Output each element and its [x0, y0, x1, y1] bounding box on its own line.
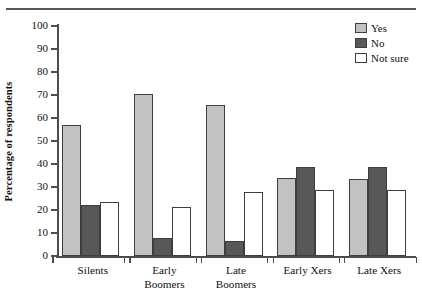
y-axis-tick-label: 80: [18, 66, 48, 77]
y-axis-tick-label: 10: [18, 227, 48, 238]
bar-late-boomers-no: [225, 241, 244, 256]
bar-silents-no: [81, 205, 100, 256]
x-axis-category-label: Late Xers: [337, 264, 421, 278]
y-axis-tick-mark: [51, 209, 57, 210]
bar-chart-figure: Percentage of respondents 01020304050607…: [0, 0, 422, 301]
legend-item-label: No: [371, 38, 384, 49]
chart-legend: YesNoNot sure: [355, 21, 419, 66]
x-axis-tick-mark: [339, 257, 340, 263]
y-axis-tick-label: 60: [18, 112, 48, 123]
y-axis-tick-mark: [51, 117, 57, 118]
legend-item-not-sure[interactable]: Not sure: [355, 51, 419, 65]
legend-item-label: Yes: [371, 23, 387, 34]
bar-early-boomers-not-sure: [172, 207, 191, 256]
y-axis-tick-mark: [51, 186, 57, 187]
y-axis-tick-labels: 0102030405060708090100: [16, 0, 48, 301]
x-axis-tick-mark: [344, 257, 345, 263]
x-axis-tick-mark: [416, 257, 417, 263]
y-axis-tick-mark: [51, 163, 57, 164]
bar-early-xers-no: [296, 167, 315, 256]
bar-late-xers-not-sure: [387, 190, 406, 256]
x-axis-line: [56, 256, 416, 258]
dark-gray-swatch: [355, 38, 367, 48]
bar-early-xers-yes: [277, 178, 296, 256]
y-axis-tick-label: 30: [18, 181, 48, 192]
y-axis-tick-mark: [51, 140, 57, 141]
y-axis-tick-label: 40: [18, 158, 48, 169]
y-axis-tick-label: 70: [18, 89, 48, 100]
y-axis-tick-label: 20: [18, 204, 48, 215]
x-axis-tick-mark: [124, 257, 125, 263]
x-axis-tick-mark: [196, 257, 197, 263]
x-axis-tick-mark: [273, 257, 274, 263]
bar-late-boomers-not-sure: [244, 192, 263, 256]
light-gray-swatch: [355, 23, 367, 33]
y-axis-tick-mark: [51, 71, 57, 72]
x-axis-tick-mark: [201, 257, 202, 263]
bar-silents-yes: [62, 125, 81, 256]
bar-silents-not-sure: [100, 202, 119, 256]
y-axis-tick-label: 100: [18, 20, 48, 31]
top-divider-rule: [6, 8, 416, 10]
bar-late-xers-no: [368, 167, 387, 256]
bar-early-xers-not-sure: [315, 190, 334, 256]
y-axis-tick-mark: [51, 94, 57, 95]
y-axis-tick-mark: [51, 25, 57, 26]
bar-early-boomers-no: [153, 238, 172, 256]
y-axis-tick-label: 50: [18, 135, 48, 146]
y-axis-tick-mark: [51, 48, 57, 49]
bar-late-boomers-yes: [206, 105, 225, 256]
bar-early-boomers-yes: [134, 94, 153, 256]
bar-late-xers-yes: [349, 179, 368, 256]
legend-item-label: Not sure: [371, 53, 409, 64]
x-axis-tick-mark: [52, 257, 53, 263]
y-axis-tick-label: 90: [18, 43, 48, 54]
x-axis-tick-mark: [267, 257, 268, 263]
y-axis-tick-mark: [51, 232, 57, 233]
legend-item-no[interactable]: No: [355, 36, 419, 50]
x-axis-tick-mark: [129, 257, 130, 263]
legend-item-yes[interactable]: Yes: [355, 21, 419, 35]
y-axis-tick-label: 0: [18, 250, 48, 261]
y-axis-title-text: Percentage of respondents: [4, 81, 15, 201]
white-swatch: [355, 53, 367, 63]
